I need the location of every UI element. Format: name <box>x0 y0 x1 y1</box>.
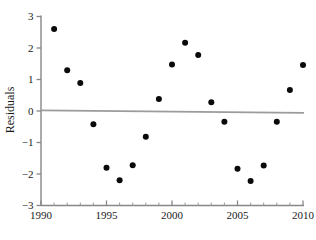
data-point <box>156 96 162 102</box>
data-point <box>104 165 110 171</box>
data-point <box>235 166 241 172</box>
data-point <box>208 99 214 105</box>
data-point <box>169 61 175 67</box>
y-axis-title: Residuals <box>3 86 17 133</box>
y-tick-labels: 3210−1−2−3 <box>22 10 34 211</box>
chart-svg: 3210−1−2−3 19901995200020052010 Residual… <box>0 0 316 240</box>
data-point <box>274 119 280 125</box>
y-axis-group: 3210−1−2−3 <box>22 10 41 211</box>
data-point <box>77 80 83 86</box>
data-point <box>182 40 188 46</box>
data-point <box>248 178 254 184</box>
residual-scatter-plot: 3210−1−2−3 19901995200020052010 Residual… <box>0 0 316 240</box>
data-point <box>287 87 293 93</box>
data-point <box>51 26 57 32</box>
data-point <box>130 162 136 168</box>
chart-root: 3210−1−2−3 19901995200020052010 Residual… <box>0 0 316 240</box>
x-axis-group: 19901995200020052010 <box>30 201 315 221</box>
data-point <box>261 162 267 168</box>
y-tick-label: 2 <box>28 42 34 54</box>
x-tick-label: 2010 <box>292 209 315 221</box>
x-tick-label: 1995 <box>96 209 119 221</box>
y-tick-label: 1 <box>28 73 34 85</box>
data-point <box>300 62 306 68</box>
x-tick-label: 2000 <box>161 209 184 221</box>
data-point <box>90 121 96 127</box>
data-point <box>64 67 70 73</box>
data-point <box>195 52 201 58</box>
y-tick-label: 3 <box>28 10 34 22</box>
y-tick-label: 0 <box>28 105 34 117</box>
data-point <box>117 177 123 183</box>
data-point-layer <box>51 26 306 184</box>
x-tick-label: 1990 <box>30 209 53 221</box>
x-tick-label: 2005 <box>227 209 250 221</box>
y-tick-label: −2 <box>22 168 34 180</box>
y-tick-label: −1 <box>22 136 34 148</box>
zero-reference-line <box>41 110 304 113</box>
data-point <box>143 134 149 140</box>
x-tick-labels: 19901995200020052010 <box>30 209 315 221</box>
data-point <box>221 119 227 125</box>
